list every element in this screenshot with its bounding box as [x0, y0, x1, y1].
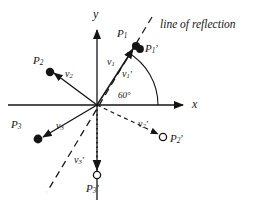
vector-label-v2-prime: v2’	[138, 119, 149, 130]
point-P2-marker	[46, 68, 54, 76]
vector-label-v2: v2	[65, 69, 73, 80]
axis-x-label: x	[192, 98, 197, 110]
point-P3-marker	[34, 135, 43, 144]
point-label-P2-prime: P2’	[170, 133, 184, 145]
point-P3-prime-marker	[93, 171, 100, 178]
vector-label-v1-prime: v1’	[122, 69, 133, 80]
point-label-P3-prime: P3’	[86, 183, 100, 195]
axis-y-label: y	[93, 8, 98, 20]
vector-v2	[54, 73, 97, 105]
line-of-reflection-label: line of reflection	[160, 19, 236, 31]
point-label-P1: P1	[117, 28, 127, 40]
point-label-P2: P2	[33, 55, 43, 67]
vector-label-v3-prime: v3’	[74, 155, 85, 166]
point-P1-prime-marker	[136, 45, 144, 53]
diagram-canvas	[0, 0, 264, 208]
point-P2-prime-marker	[159, 133, 166, 140]
vector-label-v3: v3	[56, 121, 64, 132]
point-label-P1-prime: P1’	[145, 43, 159, 55]
vector-v2-prime	[97, 105, 158, 134]
point-label-P3: P3	[11, 119, 21, 131]
reflection-diagram-figure: y x line of reflection 60° P1 P1’ P2 P2’…	[0, 0, 264, 208]
vector-label-v1: v1	[107, 57, 115, 68]
angle-60-label: 60°	[118, 91, 131, 100]
